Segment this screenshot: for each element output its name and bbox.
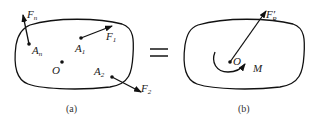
label-o-b: O — [233, 55, 241, 67]
point-o-b — [228, 60, 232, 64]
label-f1: F1 — [105, 30, 116, 44]
label-o-a: O — [52, 64, 60, 76]
caption-a: (a) — [66, 103, 77, 115]
point-a2 — [110, 75, 114, 79]
label-fn: Fn — [26, 8, 38, 22]
force-system-diagram: Fn An F1 A1 O A2 F2 (a) F′R O M (b) — [0, 0, 318, 124]
panel-a: Fn An F1 A1 O A2 F2 (a) — [15, 8, 152, 115]
label-moment: M — [252, 62, 263, 74]
label-an: An — [31, 44, 43, 58]
equals-sign — [150, 49, 168, 56]
point-an — [27, 42, 31, 46]
label-a1: A1 — [74, 42, 85, 56]
caption-b: (b) — [238, 103, 250, 115]
rigid-body-outline-b — [184, 19, 304, 89]
panel-b: F′R O M (b) — [184, 8, 304, 115]
label-f2: F2 — [140, 82, 152, 96]
point-o-a — [60, 60, 64, 64]
point-a1 — [79, 36, 83, 40]
label-a2: A2 — [93, 65, 105, 79]
